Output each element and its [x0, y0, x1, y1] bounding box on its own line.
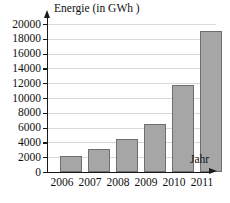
y-tick-label: 4000	[0, 137, 41, 149]
y-tick-labels: 20000 18000 16000 14000 12000 10000 8000…	[0, 0, 230, 203]
y-tick-label: 20000	[0, 19, 41, 31]
y-tick-label: 2000	[0, 152, 41, 164]
y-tick-label: 14000	[0, 63, 41, 75]
y-tick-label: 8000	[0, 107, 41, 119]
y-tick-label: 10000	[0, 93, 41, 105]
x-axis-title: Jahr	[190, 153, 209, 165]
y-tick-label: 18000	[0, 33, 41, 45]
y-tick-label: 0	[0, 167, 41, 179]
y-tick-label: 6000	[0, 122, 41, 134]
x-tick-label-2011: 2011	[186, 176, 218, 188]
bar-chart: 20000 18000 16000 14000 12000 10000 8000…	[0, 0, 230, 203]
y-tick-label: 16000	[0, 48, 41, 60]
y-axis-title: Energie (in GWh )	[54, 2, 140, 14]
y-tick-label: 12000	[0, 78, 41, 90]
